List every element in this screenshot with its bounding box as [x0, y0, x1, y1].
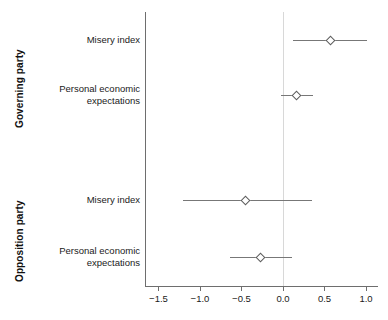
- estimate-marker: [325, 36, 335, 46]
- x-tick-mark: [366, 287, 367, 291]
- group-label-opposition-party: Opposition party: [14, 200, 25, 282]
- x-tick-mark: [158, 287, 159, 291]
- x-tick-mark: [241, 287, 242, 291]
- x-tick-mark: [324, 287, 325, 291]
- forest-plot-figure: Governing party Opposition party Misery …: [0, 0, 388, 320]
- x-tick-mark: [283, 287, 284, 291]
- x-axis-line: [145, 286, 378, 287]
- estimate-marker: [256, 253, 266, 263]
- x-tick-label: −1.5: [139, 293, 179, 304]
- x-tick-label: 0.5: [305, 293, 345, 304]
- interval-row: [0, 90, 388, 101]
- zero-reference-line: [283, 12, 284, 286]
- x-tick-label: 0.0: [263, 293, 303, 304]
- x-tick-label: −0.5: [222, 293, 262, 304]
- interval-row: [0, 252, 388, 263]
- x-tick-label: −1.0: [180, 293, 220, 304]
- x-tick-mark: [200, 287, 201, 291]
- estimate-marker: [241, 196, 251, 206]
- interval-row: [0, 195, 388, 206]
- y-axis-line: [145, 12, 146, 287]
- interval-row: [0, 35, 388, 46]
- x-tick-label: 1.0: [346, 293, 386, 304]
- estimate-marker: [291, 91, 301, 101]
